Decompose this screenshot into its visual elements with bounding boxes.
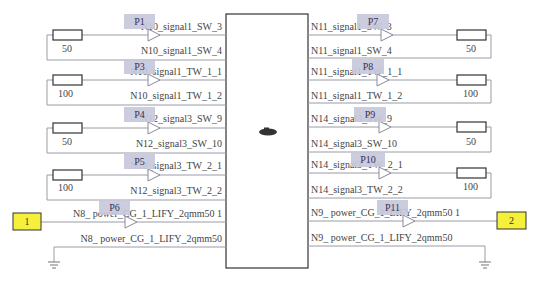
net-label: N12_signal3_SW_10	[136, 138, 222, 149]
port-label[interactable]: P5	[134, 156, 145, 167]
resistor-value: 50	[466, 43, 476, 54]
resistor-value: 100	[58, 88, 73, 99]
resistor-right-1[interactable]	[457, 30, 486, 40]
right-net-group-p9: 50 N14_signal3_SW_9 N14_signal3_SW_10 P9	[308, 107, 491, 152]
left-power-group-p6: 1 N8_ power_CG_1_LIFY_2qmm50 1 N8_ power…	[13, 200, 226, 268]
left-net-group-p1: 50 N10_signal1_SW_3 N10_signal1_SW_4 P1	[47, 14, 226, 60]
resistor-value: 100	[463, 181, 478, 192]
left-net-group-p4: 50 N12_signal3_SW_9 N12_signal3_SW_10 P4	[47, 107, 226, 153]
port-label[interactable]: P6	[109, 202, 120, 213]
right-net-group-p7: 50 N11_signal1_SW_3 N11_signal1_SW_4 P7	[308, 14, 491, 58]
resistor-right-4[interactable]	[457, 168, 486, 178]
net-label: N8_ power_CG_1_LIFY_2qmm50	[81, 233, 222, 244]
schematic-drawing: 50 N10_signal1_SW_3 N10_signal1_SW_4 P1 …	[0, 0, 535, 281]
port-label[interactable]: P7	[368, 16, 379, 27]
net-label: N14_signal3_SW_10	[311, 138, 397, 149]
resistor-value: 50	[62, 43, 72, 54]
central-component-block[interactable]	[226, 14, 308, 268]
right-net-group-p8: 100 N11_signal1_TW_1_1 N11_signal1_TW_1_…	[308, 59, 491, 103]
net-label: N11_signal1_TW_1_2	[311, 90, 402, 101]
resistor-right-2[interactable]	[457, 75, 486, 85]
port-label[interactable]: P10	[360, 154, 376, 165]
ground-icon	[479, 262, 491, 268]
port-label[interactable]: P9	[365, 109, 376, 120]
net-label: N10_signal1_TW_1_2	[130, 90, 222, 101]
resistor-right-3[interactable]	[457, 122, 486, 132]
connector-label: 2	[509, 215, 514, 226]
right-net-group-p10: 100 N14_signal3_TW_2_1 N14_signal3_TW_2_…	[308, 152, 491, 198]
left-net-group-p5: 100 N12_signal3_TW_2_1 N12_signal3_TW_2_…	[47, 154, 226, 200]
net-label: N10_signal1_SW_4	[141, 45, 222, 56]
resistor-left-3[interactable]	[53, 123, 82, 133]
net-label: N11_signal1_SW_4	[311, 45, 392, 56]
port-label[interactable]: P4	[134, 109, 145, 120]
resistor-value: 100	[463, 88, 478, 99]
right-power-group-p11: 2 N9_ power_CG_1_LIFY_2qmm50 1 N9_ power…	[308, 200, 526, 268]
resistor-left-2[interactable]	[53, 75, 82, 85]
port-label[interactable]: P3	[134, 61, 145, 72]
schematic-canvas: 50 N10_signal1_SW_3 N10_signal1_SW_4 P1 …	[0, 0, 535, 281]
resistor-value: 50	[62, 136, 72, 147]
net-label: N12_signal3_TW_2_2	[130, 185, 222, 196]
resistor-left-1[interactable]	[53, 30, 82, 40]
resistor-value: 50	[466, 136, 476, 147]
net-label: N8_ power_CG_1_LIFY_2qmm50 1	[73, 208, 222, 219]
ground-icon	[48, 262, 60, 268]
connector-label: 1	[25, 216, 30, 227]
left-net-group-p3: 100 N10_signal1_TW_1_1 N10_signal1_TW_1_…	[47, 59, 226, 105]
port-label[interactable]: P11	[385, 202, 400, 213]
resistor-value: 100	[58, 182, 73, 193]
net-label: N14_signal3_TW_2_2	[311, 184, 403, 195]
port-label[interactable]: P8	[363, 61, 374, 72]
port-label[interactable]: P1	[134, 16, 145, 27]
net-label: N9_ power_CG_1_LIFY_2qmm50	[311, 232, 452, 243]
resistor-left-4[interactable]	[53, 170, 82, 180]
